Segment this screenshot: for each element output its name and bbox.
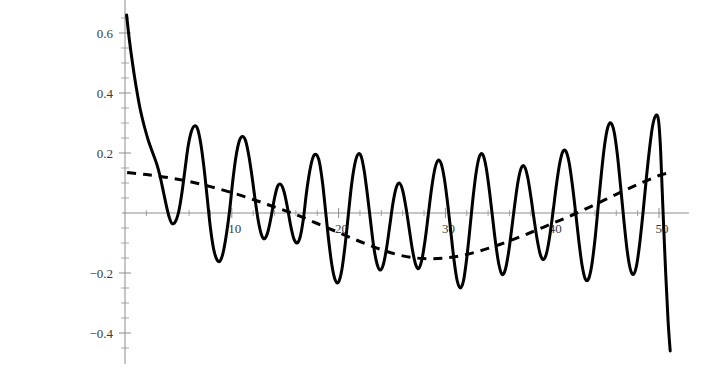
- notebook-output-cell: Out[4]= 1020304050 −0.4−0.20.20.40.6: [0, 0, 704, 386]
- x-tick-label: 50: [656, 221, 669, 236]
- y-tick-label: 0.2: [97, 146, 113, 161]
- plot-container: 1020304050 −0.4−0.20.20.40.6: [0, 0, 704, 386]
- x-tick-label: 10: [228, 221, 241, 236]
- y-tick-label: −0.2: [89, 266, 113, 281]
- y-tick-label: 0.4: [97, 86, 114, 101]
- y-tick-label: −0.4: [89, 326, 113, 341]
- line-chart: 1020304050 −0.4−0.20.20.40.6: [0, 0, 704, 386]
- y-tick-label: 0.6: [97, 26, 114, 41]
